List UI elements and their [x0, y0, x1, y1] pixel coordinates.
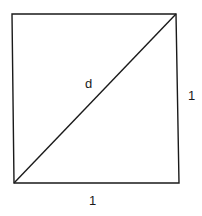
diagonal-line: [14, 14, 176, 183]
square-diagram: [0, 0, 202, 216]
diagonal-label: d: [85, 77, 92, 90]
bottom-side-label: 1: [89, 194, 96, 207]
right-side-label: 1: [188, 89, 195, 102]
